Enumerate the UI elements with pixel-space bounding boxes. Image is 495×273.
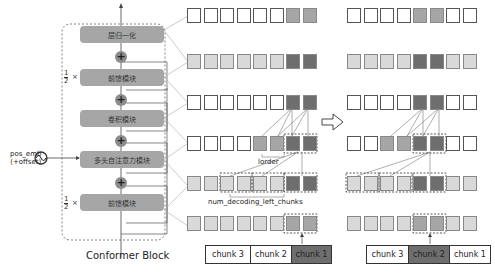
token-cell — [220, 176, 234, 191]
token-cell — [380, 176, 394, 191]
token-cell — [270, 8, 284, 23]
token-cell — [204, 136, 218, 151]
token-cell — [237, 176, 251, 191]
add-icon: + — [115, 94, 127, 106]
token-cell — [237, 216, 251, 231]
token-cell — [270, 216, 284, 231]
token-cell — [237, 136, 251, 151]
token-cell — [204, 216, 218, 231]
token-cell — [303, 176, 317, 191]
token-cell — [430, 54, 444, 69]
pos-emb-label: pos_emb(+offset) — [10, 150, 41, 166]
token-cell — [286, 95, 300, 110]
token-cell — [286, 136, 300, 151]
right-chunk-bar: chunk 3 chunk 2 chunk 1 — [366, 245, 491, 264]
add-icon: + — [115, 177, 127, 189]
chunk-3: chunk 3 — [367, 246, 409, 263]
block-feedforward-top: 前馈模块 — [80, 69, 164, 86]
token-cell — [430, 8, 444, 23]
token-cell — [303, 216, 317, 231]
token-cell — [253, 95, 267, 110]
token-cell — [463, 8, 477, 23]
token-cell — [187, 8, 201, 23]
block-mhsa: 多头自注意力模块 — [80, 151, 164, 168]
lorder-label: lorder — [258, 158, 279, 166]
token-cell — [446, 8, 460, 23]
token-cell — [413, 176, 427, 191]
token-cell — [446, 95, 460, 110]
token-cell — [446, 176, 460, 191]
token-cell — [430, 176, 444, 191]
token-cell — [364, 8, 378, 23]
token-cell — [380, 8, 394, 23]
token-cell — [463, 136, 477, 151]
token-cell — [303, 136, 317, 151]
token-cell — [220, 8, 234, 23]
token-cell — [380, 95, 394, 110]
token-cell — [463, 54, 477, 69]
token-cell — [303, 95, 317, 110]
token-cell — [270, 95, 284, 110]
token-cell — [397, 176, 411, 191]
token-cell — [446, 216, 460, 231]
token-cell — [430, 216, 444, 231]
token-cell — [253, 8, 267, 23]
token-cell — [253, 136, 267, 151]
token-cell — [237, 8, 251, 23]
token-cell — [397, 95, 411, 110]
token-cell — [347, 8, 361, 23]
chunk-1: chunk 1 — [450, 246, 490, 263]
token-cell — [347, 176, 361, 191]
block-convolution: 卷积模块 — [80, 110, 164, 127]
token-cell — [397, 136, 411, 151]
token-cell — [286, 216, 300, 231]
block-layernorm: 层归一化 — [80, 26, 164, 43]
token-cell — [253, 216, 267, 231]
token-cell — [347, 216, 361, 231]
token-cell — [286, 54, 300, 69]
chunk-2-active: chunk 2 — [409, 246, 450, 263]
block-feedforward-bottom: 前馈模块 — [80, 194, 164, 211]
token-cell — [413, 54, 427, 69]
token-cell — [347, 54, 361, 69]
token-cell — [413, 136, 427, 151]
token-cell — [270, 136, 284, 151]
times-label: × — [72, 74, 78, 81]
token-cell — [303, 54, 317, 69]
add-icon: + — [115, 135, 127, 147]
token-cell — [220, 216, 234, 231]
token-cell — [463, 176, 477, 191]
token-cell — [397, 54, 411, 69]
token-cell — [413, 8, 427, 23]
token-cell — [204, 95, 218, 110]
token-cell — [270, 176, 284, 191]
chunk-2: chunk 2 — [251, 246, 292, 263]
token-cell — [413, 216, 427, 231]
token-cell — [446, 54, 460, 69]
token-cell — [270, 54, 284, 69]
token-cell — [204, 54, 218, 69]
token-cell — [364, 216, 378, 231]
token-cell — [187, 95, 201, 110]
token-cell — [463, 216, 477, 231]
token-cell — [237, 95, 251, 110]
token-cell — [380, 54, 394, 69]
half-scale-label: 12 — [64, 70, 68, 85]
token-cell — [430, 95, 444, 110]
token-cell — [347, 95, 361, 110]
conformer-block-title: Conformer Block — [86, 250, 169, 261]
token-cell — [237, 54, 251, 69]
token-cell — [286, 8, 300, 23]
token-cell — [380, 216, 394, 231]
token-cell — [220, 136, 234, 151]
add-icon: + — [115, 51, 127, 63]
token-cell — [446, 136, 460, 151]
chunk-3: chunk 3 — [206, 246, 251, 263]
token-cell — [364, 95, 378, 110]
token-cell — [187, 54, 201, 69]
token-cell — [187, 176, 201, 191]
token-cell — [413, 95, 427, 110]
token-cell — [220, 54, 234, 69]
token-cell — [380, 136, 394, 151]
transition-arrow-icon — [322, 114, 343, 130]
